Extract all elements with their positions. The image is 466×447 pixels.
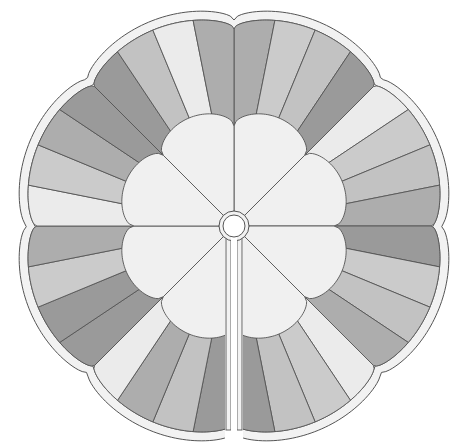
tree-skirt-svg (0, 0, 466, 447)
slit-binding-left (226, 236, 231, 430)
slit-binding-right (237, 236, 242, 430)
center-hole (223, 215, 245, 237)
tree-skirt-diagram (0, 0, 466, 447)
slit-opening (231, 234, 237, 438)
